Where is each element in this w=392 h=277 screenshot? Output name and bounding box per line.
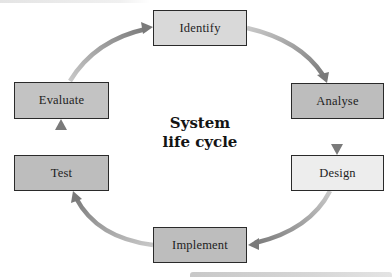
arrow-analyse-to-design bbox=[331, 119, 343, 155]
stage-label: Analyse bbox=[316, 94, 358, 109]
stage-design: Design bbox=[291, 155, 384, 191]
arrow-test-to-evaluate bbox=[55, 119, 67, 154]
title-line-2: life cycle bbox=[130, 133, 270, 152]
stage-label: Test bbox=[51, 166, 72, 181]
stage-identify: Identify bbox=[153, 10, 247, 46]
stage-analyse: Analyse bbox=[291, 83, 384, 119]
stage-label: Evaluate bbox=[39, 93, 84, 108]
stage-test: Test bbox=[14, 155, 109, 191]
arrow-design-to-implement bbox=[248, 191, 330, 250]
arrow-implement-to-test bbox=[71, 191, 153, 245]
arrow-evaluate-to-identify bbox=[70, 22, 153, 81]
stage-label: Implement bbox=[172, 238, 228, 253]
title-line-1: System bbox=[130, 114, 270, 133]
diagram-title: System life cycle bbox=[130, 114, 270, 152]
stage-evaluate: Evaluate bbox=[14, 82, 109, 119]
arrow-identify-to-analyse bbox=[247, 28, 329, 83]
stage-implement: Implement bbox=[153, 227, 247, 263]
stage-label: Design bbox=[319, 166, 356, 181]
bottom-decorative-bar bbox=[190, 272, 392, 277]
stage-label: Identify bbox=[179, 21, 220, 36]
